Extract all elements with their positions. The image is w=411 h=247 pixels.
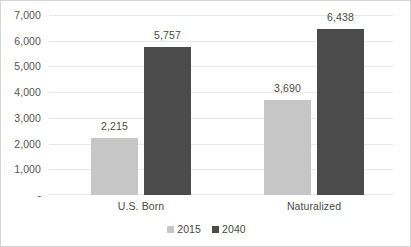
y-tick-label-2000: 2,000 — [14, 138, 41, 150]
y-axis: - 1,000 2,000 3,000 4,000 5,000 6,000 7,… — [1, 1, 45, 247]
bar-chart: - 1,000 2,000 3,000 4,000 5,000 6,000 7,… — [0, 0, 411, 247]
legend: 2015 2040 — [1, 223, 411, 235]
bar-value-naturalized-2015: 3,690 — [274, 82, 301, 94]
legend-item-2040[interactable]: 2040 — [212, 223, 246, 235]
legend-label-2040: 2040 — [222, 223, 246, 235]
y-tick-label-7000: 7,000 — [14, 9, 41, 21]
plot-area: 2,215 5,757 3,690 6,438 — [49, 15, 393, 195]
y-tick-label-0: - — [37, 189, 41, 201]
legend-item-2015[interactable]: 2015 — [167, 223, 201, 235]
bar-value-naturalized-2040: 6,438 — [327, 11, 354, 23]
y-tick-label-4000: 4,000 — [14, 86, 41, 98]
bar-naturalized-2015[interactable] — [264, 100, 311, 195]
bar-naturalized-2040[interactable] — [317, 29, 364, 195]
x-category-label-usborn: U.S. Born — [118, 200, 164, 212]
bar-value-usborn-2040: 5,757 — [154, 29, 181, 41]
x-category-label-naturalized: Naturalized — [287, 200, 341, 212]
legend-swatch-icon-2015 — [167, 226, 174, 233]
legend-swatch-icon-2040 — [212, 226, 219, 233]
bar-usborn-2040[interactable] — [144, 47, 191, 195]
bar-value-usborn-2015: 2,215 — [101, 120, 128, 132]
y-tick-label-6000: 6,000 — [14, 35, 41, 47]
y-tick-label-1000: 1,000 — [14, 163, 41, 175]
legend-label-2015: 2015 — [177, 223, 201, 235]
bar-usborn-2015[interactable] — [91, 138, 138, 195]
y-tick-label-3000: 3,000 — [14, 112, 41, 124]
y-tick-label-5000: 5,000 — [14, 60, 41, 72]
